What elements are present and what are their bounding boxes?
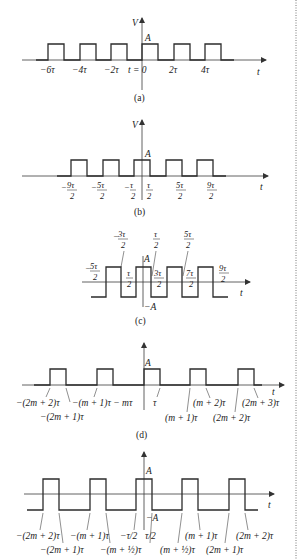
- tick-label: −(2m + 2)τ: [16, 531, 60, 542]
- tick-label: τ: [153, 398, 157, 408]
- tick-label: (m + ½)τ: [160, 545, 195, 556]
- svg-text:τ: τ: [147, 180, 151, 190]
- pulse-train-diagrams: V A t −6τ −4τ −2τ t = 0 2τ 4τ (a) V A t …: [0, 0, 298, 559]
- amplitude-label: A: [143, 254, 150, 264]
- waveform-d: [34, 369, 262, 385]
- tick-label: (2m + 1)τ: [206, 545, 244, 556]
- t-axis-label: t: [272, 387, 275, 397]
- svg-text:2: 2: [186, 240, 191, 250]
- svg-text:−: −: [61, 182, 67, 192]
- tick-label: −τ/2: [120, 531, 137, 541]
- amplitude-label: A: [144, 149, 151, 159]
- tick-label: −(2m + 1)τ: [40, 412, 84, 423]
- tick-label: −(2m + 1)τ: [40, 545, 84, 556]
- svg-text:τ: τ: [154, 229, 158, 239]
- tick-label: −6τ: [40, 65, 55, 75]
- t-axis-label: t: [260, 182, 263, 192]
- tick-label: −2τ: [104, 65, 119, 75]
- svg-text:2: 2: [93, 272, 98, 282]
- v-axis-label: V: [132, 120, 139, 130]
- svg-text:2: 2: [100, 191, 105, 201]
- tick-label: − 5τ 2: [85, 261, 100, 282]
- waveform-e: [27, 479, 258, 510]
- svg-text:5τ: 5τ: [97, 180, 105, 190]
- negative-amplitude-label: −A: [146, 513, 158, 523]
- tick-label: (m + 2)τ: [193, 398, 226, 409]
- svg-text:τ: τ: [130, 180, 134, 190]
- amplitude-label: A: [144, 33, 151, 43]
- svg-text:2: 2: [147, 191, 152, 201]
- svg-text:3τ: 3τ: [117, 229, 126, 239]
- caption: (d): [136, 430, 147, 441]
- svg-text:2: 2: [157, 279, 162, 289]
- tick-label: 3τ 2: [153, 268, 164, 289]
- tick-label: − 3τ 2: [113, 229, 128, 267]
- tick-label: τ 2: [146, 180, 153, 201]
- tick-label: − 5τ 2: [91, 180, 107, 201]
- tick-label: (2m + 2)τ: [236, 531, 274, 542]
- tick-label: − τ 2: [124, 180, 136, 201]
- svg-text:−: −: [91, 182, 97, 192]
- svg-text:2: 2: [127, 279, 132, 289]
- tick-label: −(m + ½)τ: [100, 545, 142, 556]
- svg-text:9τ: 9τ: [67, 180, 75, 190]
- caption: (b): [134, 207, 145, 218]
- svg-text:2: 2: [178, 191, 183, 201]
- tick-label: −(m + 1)τ: [70, 531, 110, 542]
- tick-label: τ 2: [126, 268, 133, 289]
- svg-text:−: −: [124, 182, 130, 192]
- svg-text:2: 2: [70, 191, 75, 201]
- caption: (c): [135, 316, 146, 327]
- svg-text:9τ: 9τ: [207, 180, 215, 190]
- svg-text:2: 2: [209, 191, 214, 201]
- tick-label: t = 0: [128, 65, 147, 75]
- tick-label: −(2m + 2)τ: [16, 398, 60, 409]
- negative-amplitude-label: −A: [144, 302, 156, 312]
- waveform-a: [36, 44, 234, 60]
- tick-label: 5τ 2: [176, 180, 186, 201]
- caption: (a): [134, 93, 145, 104]
- svg-text:5τ: 5τ: [176, 180, 184, 190]
- svg-text:τ: τ: [127, 268, 131, 278]
- tick-label: 9τ 2: [207, 180, 217, 201]
- tick-label: −(m + 1)τ − mτ: [72, 398, 133, 409]
- tick-label: 4τ: [201, 65, 210, 75]
- svg-text:7τ: 7τ: [186, 268, 194, 278]
- figure-c: A −A t − 5τ 2 − 3τ 2 τ 2 τ 2: [82, 229, 250, 327]
- svg-text:5τ: 5τ: [90, 261, 98, 271]
- v-axis-label: V: [132, 18, 139, 28]
- waveform-b: [57, 160, 226, 176]
- tick-label: (m + 1)τ: [165, 413, 198, 424]
- tick-label: (m + 1)τ: [185, 531, 218, 542]
- amplitude-label: A: [145, 466, 152, 476]
- tick-label: (2m + 2)τ: [213, 413, 251, 424]
- svg-text:3τ: 3τ: [153, 268, 162, 278]
- tick-label: 2τ: [169, 65, 178, 75]
- figure-e: A −A t −(2m + 2)τ −(2m + 1)τ −(m + 1)τ −…: [16, 452, 274, 556]
- amplitude-label: A: [144, 358, 151, 368]
- figure-d: A t −(2m + 2)τ −(2m + 1)τ −(m + 1)τ − mτ…: [16, 343, 284, 441]
- tick-label: (2m + 3)τ: [242, 398, 280, 409]
- tick-label: 7τ 2: [186, 268, 196, 289]
- t-axis-label: t: [257, 67, 260, 77]
- svg-text:2: 2: [131, 191, 136, 201]
- svg-text:5τ: 5τ: [184, 229, 192, 239]
- figure-a: V A t −6τ −4τ −2τ t = 0 2τ 4τ (a): [22, 18, 266, 104]
- t-axis-label: t: [240, 288, 243, 298]
- tick-label: 9τ 2: [219, 263, 229, 284]
- svg-text:2: 2: [221, 274, 226, 284]
- svg-text:2: 2: [154, 240, 159, 250]
- svg-text:2: 2: [189, 279, 194, 289]
- tick-label: − 9τ 2: [61, 180, 77, 201]
- figure-b: V A t − 9τ 2 − 5τ 2 − τ 2 τ 2 5τ: [22, 120, 268, 218]
- svg-text:2: 2: [121, 240, 126, 250]
- tick-label: −4τ: [72, 65, 87, 75]
- t-axis-label: t: [268, 500, 271, 510]
- svg-text:9τ: 9τ: [219, 263, 227, 273]
- tick-label: τ/2: [145, 531, 156, 541]
